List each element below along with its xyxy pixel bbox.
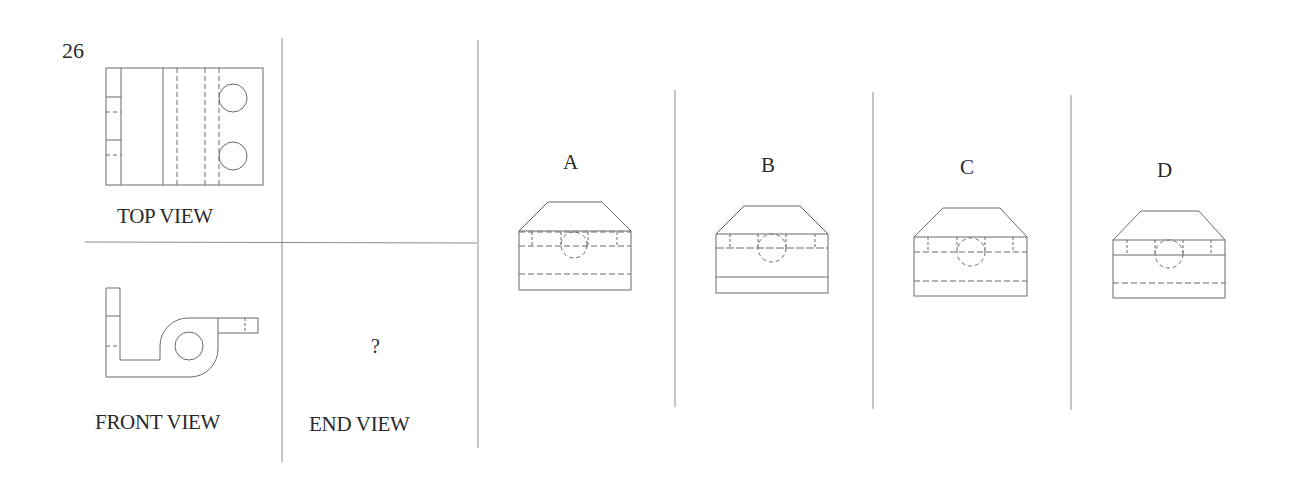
option-d-drawing[interactable] — [1113, 211, 1225, 298]
option-c-drawing[interactable] — [914, 208, 1027, 296]
drawing-canvas — [0, 0, 1297, 482]
option-a-drawing[interactable] — [519, 202, 631, 290]
top-view-drawing — [106, 68, 263, 185]
option-b-drawing[interactable] — [716, 206, 828, 293]
front-view-drawing — [106, 288, 258, 377]
frame-lines — [85, 38, 1071, 462]
